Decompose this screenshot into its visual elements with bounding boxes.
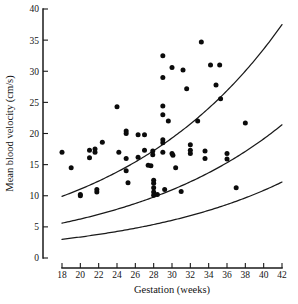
data-point	[234, 185, 239, 190]
data-point	[162, 187, 167, 192]
data-point	[142, 132, 147, 137]
data-point	[155, 192, 160, 197]
data-point	[214, 82, 219, 87]
y-axis: 0510152025303540	[30, 4, 49, 263]
data-point	[188, 151, 193, 156]
x-tick-label: 18	[57, 270, 67, 280]
x-tick-label: 24	[112, 270, 122, 280]
data-point	[179, 189, 184, 194]
data-point	[124, 168, 129, 173]
y-tick-label: 10	[30, 191, 40, 201]
data-point	[188, 142, 193, 147]
data-point	[208, 63, 213, 68]
data-point	[203, 148, 208, 153]
data-point	[150, 152, 155, 157]
y-axis-title: Mean blood velocity (cm/s)	[4, 75, 16, 192]
data-point	[170, 65, 175, 70]
data-point	[151, 181, 156, 186]
data-point	[100, 140, 105, 145]
data-point	[184, 86, 189, 91]
x-tick-label: 26	[131, 270, 141, 280]
chart-canvas: 0510152025303540 18202224262830323436384…	[0, 0, 298, 304]
x-tick-label: 28	[149, 270, 159, 280]
data-point	[124, 131, 129, 136]
x-tick-label: 34	[204, 270, 214, 280]
x-axis-title: Gestation (weeks)	[134, 284, 211, 296]
data-point	[217, 63, 222, 68]
data-point	[151, 185, 156, 190]
y-tick-label: 35	[30, 36, 40, 46]
data-point	[199, 39, 204, 44]
x-tick-label: 32	[186, 270, 196, 280]
data-point	[160, 112, 165, 117]
centile-curve-median-centile	[62, 125, 282, 223]
x-tick-label: 22	[94, 270, 104, 280]
x-tick-label: 42	[277, 270, 287, 280]
data-point	[160, 75, 165, 80]
x-tick-label: 20	[76, 270, 86, 280]
scatter-chart: 0510152025303540 18202224262830323436384…	[0, 0, 298, 304]
data-point	[170, 153, 175, 158]
data-points	[60, 39, 248, 198]
data-point	[146, 163, 151, 168]
data-point	[166, 119, 171, 124]
data-point	[181, 68, 186, 73]
y-tick-label: 15	[30, 160, 40, 170]
data-point	[115, 104, 120, 109]
fitted-centile-curves	[62, 25, 282, 240]
data-point	[60, 150, 65, 155]
data-point	[195, 119, 200, 124]
data-point	[203, 156, 208, 161]
data-point	[93, 150, 98, 155]
data-point	[78, 193, 83, 198]
data-point	[225, 151, 230, 156]
x-tick-label: 36	[222, 270, 232, 280]
centile-curve-upper-centile	[62, 25, 282, 197]
data-point	[87, 155, 92, 160]
data-point	[160, 140, 165, 145]
y-tick-label: 30	[30, 67, 40, 77]
data-point	[87, 148, 92, 153]
data-point	[136, 132, 141, 137]
y-tick-label: 20	[30, 129, 40, 139]
x-tick-label: 38	[241, 270, 251, 280]
data-point	[160, 150, 165, 155]
data-point	[218, 96, 223, 101]
data-point	[126, 180, 131, 185]
data-point	[225, 157, 230, 162]
data-point	[136, 155, 141, 160]
data-point	[160, 53, 165, 58]
data-point	[173, 165, 178, 170]
x-tick-label: 40	[259, 270, 269, 280]
data-point	[243, 120, 248, 125]
data-point	[160, 104, 165, 109]
data-point	[124, 156, 129, 161]
y-tick-label: 0	[34, 253, 39, 263]
y-tick-label: 40	[30, 4, 40, 14]
data-point	[94, 190, 99, 195]
y-tick-label: 25	[30, 98, 40, 108]
y-tick-label: 5	[34, 222, 39, 232]
data-point	[116, 150, 121, 155]
data-point	[142, 148, 147, 153]
x-axis: 18202224262830323436384042	[57, 263, 287, 280]
data-point	[69, 165, 74, 170]
x-tick-label: 30	[167, 270, 177, 280]
